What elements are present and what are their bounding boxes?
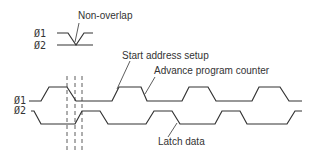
inset-non-overlap-leader	[75, 23, 79, 42]
phi1-waveform	[29, 87, 302, 101]
inset-phi2-label: Ø2	[34, 41, 46, 51]
waveform-canvas	[0, 0, 316, 156]
annotation-advance-program-counter: Advance program counter	[154, 66, 269, 76]
inset-phi1-label: Ø1	[34, 29, 46, 39]
annotation-latch-data: Latch data	[158, 137, 205, 147]
start-address-leader	[117, 61, 130, 89]
phi2-label: Ø2	[14, 106, 26, 116]
inset-annotation-non-overlap: Non-overlap	[78, 11, 132, 21]
latch-data-leader	[168, 123, 177, 137]
inset-phi1-waveform	[57, 33, 93, 45]
timing-diagram: Non-overlap Ø1 Ø2 Ø1 Ø2 Start address se…	[0, 0, 316, 156]
phi2-waveform	[31, 111, 302, 124]
advance-pc-leader	[145, 77, 155, 94]
annotation-start-address-setup: Start address setup	[122, 51, 209, 61]
